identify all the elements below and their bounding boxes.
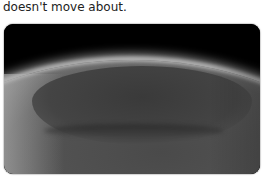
caption-text: doesn't move about. (3, 0, 127, 15)
image-vignette (4, 24, 260, 174)
planet-surface-image (4, 24, 260, 174)
